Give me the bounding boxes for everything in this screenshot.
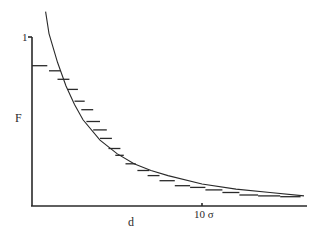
y-tick-label-1: 1 [22, 31, 28, 43]
theory-curve [46, 12, 304, 196]
y-axis-label: F [15, 111, 22, 125]
x-tick-label-10: 10 σ [194, 208, 214, 220]
force-distance-chart: 1 F d 10 σ [0, 0, 320, 240]
x-axis-label: d [128, 215, 134, 229]
histogram-steps [32, 66, 301, 197]
